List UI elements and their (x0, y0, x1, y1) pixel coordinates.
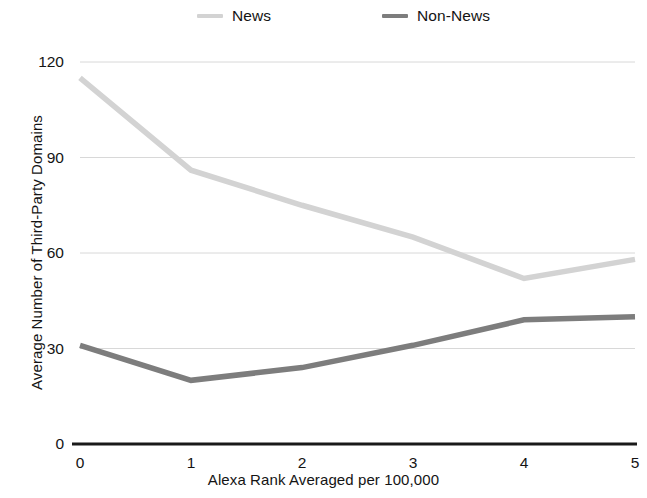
gridlines (80, 62, 635, 349)
x-tick-label-1: 1 (171, 455, 211, 471)
plot-area: 0306090120 012345 (0, 0, 647, 498)
x-tick-label-4: 4 (504, 455, 544, 471)
data-series-group (80, 78, 635, 380)
y-tick-label-120: 120 (18, 54, 64, 70)
x-axis-title: Alexa Rank Averaged per 100,000 (0, 472, 647, 487)
x-tick-label-3: 3 (393, 455, 433, 471)
y-axis-title: Average Number of Third-Party Domains (29, 98, 44, 408)
series-line-news (80, 78, 635, 279)
chart-container: News Non-News 0306090120 012345 Alexa Ra… (0, 0, 647, 498)
plot-svg (0, 0, 647, 498)
x-tick-label-2: 2 (282, 455, 322, 471)
x-tick-label-0: 0 (60, 455, 100, 471)
x-tick-label-5: 5 (615, 455, 647, 471)
y-tick-label-0: 0 (18, 436, 64, 452)
